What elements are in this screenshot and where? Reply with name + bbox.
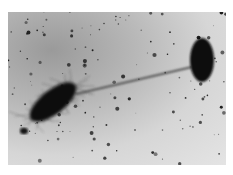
particle — [194, 89, 195, 90]
particle — [149, 12, 152, 15]
particle — [189, 126, 191, 128]
particle — [70, 29, 73, 32]
particle — [25, 21, 28, 24]
particle — [199, 121, 202, 124]
particle — [56, 131, 57, 132]
particle — [27, 31, 31, 35]
particle — [60, 122, 61, 123]
particle — [179, 77, 181, 79]
small-bacterium — [190, 38, 214, 82]
micrograph-image — [8, 12, 226, 165]
particle — [190, 80, 191, 81]
particle — [31, 85, 32, 86]
particle — [103, 157, 106, 160]
particle — [167, 53, 169, 55]
particle — [218, 134, 219, 135]
particle — [204, 96, 206, 98]
particle — [154, 152, 158, 156]
particle — [223, 81, 225, 83]
particle — [180, 120, 182, 122]
particle — [11, 31, 12, 32]
particle — [47, 140, 49, 142]
particle — [36, 29, 38, 31]
particle — [92, 49, 94, 51]
particle — [107, 143, 110, 146]
particle — [85, 73, 87, 75]
particle — [105, 124, 107, 126]
small-particle — [20, 128, 28, 134]
particle — [220, 12, 224, 15]
particle — [113, 96, 116, 99]
particle — [67, 63, 71, 67]
particle — [38, 159, 42, 163]
particle — [42, 32, 44, 34]
particle — [9, 66, 10, 67]
particle — [135, 113, 136, 114]
particle — [207, 95, 209, 97]
particle — [99, 29, 101, 31]
particle — [214, 58, 216, 60]
particle — [75, 48, 76, 49]
particle — [14, 87, 15, 88]
particle — [99, 107, 100, 108]
particle — [90, 34, 91, 35]
particle — [222, 111, 226, 115]
particle — [162, 159, 163, 160]
particle — [173, 43, 175, 45]
particle — [45, 19, 47, 21]
particle — [20, 51, 21, 52]
particle — [43, 33, 46, 36]
particle — [112, 80, 116, 84]
particle — [136, 64, 137, 65]
particle — [115, 19, 116, 20]
particle — [214, 134, 215, 135]
particle — [220, 51, 224, 55]
particle — [82, 100, 84, 102]
particle — [93, 116, 94, 117]
particle — [93, 126, 94, 127]
particle — [151, 151, 154, 154]
particle — [58, 124, 60, 126]
particle — [103, 23, 104, 24]
particles — [8, 12, 226, 165]
micrograph-svg — [8, 12, 226, 165]
particle — [224, 13, 226, 16]
particle — [83, 59, 87, 63]
particle — [192, 126, 194, 128]
particle — [27, 18, 29, 20]
particle — [141, 30, 142, 31]
particle — [162, 129, 164, 131]
particle — [85, 46, 87, 48]
particle — [169, 31, 171, 33]
particle — [43, 12, 44, 13]
particle — [84, 112, 86, 114]
particle — [84, 64, 86, 66]
particle — [169, 92, 171, 94]
particle — [62, 131, 64, 133]
particle — [213, 25, 214, 26]
particle — [207, 36, 210, 39]
particle — [74, 104, 78, 108]
particle — [57, 138, 60, 141]
particle — [73, 157, 74, 158]
particle — [91, 150, 93, 152]
particle — [29, 131, 30, 132]
particle — [152, 53, 156, 57]
particle — [218, 153, 220, 155]
pilus — [9, 112, 31, 119]
particle — [90, 25, 91, 26]
particle — [118, 23, 120, 25]
particle — [120, 17, 121, 18]
particle — [216, 61, 217, 62]
particle — [20, 125, 21, 126]
particle — [209, 80, 210, 81]
particle — [8, 59, 9, 61]
particle — [70, 131, 71, 132]
particle — [201, 114, 203, 116]
particle — [201, 98, 204, 101]
particle — [134, 129, 136, 131]
particle — [93, 137, 96, 140]
particle — [26, 58, 28, 60]
particle — [43, 26, 44, 27]
particle — [35, 133, 36, 134]
